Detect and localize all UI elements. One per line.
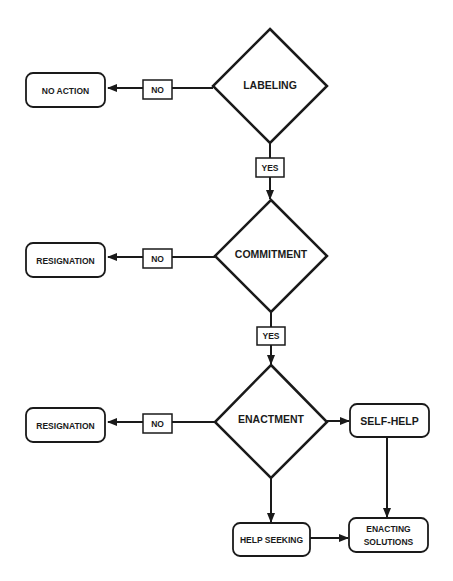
edge-enactment-to-resignation: NO — [108, 414, 215, 433]
outcome-label-line1: ENACTING — [366, 524, 411, 534]
decision-label: ENACTMENT — [238, 413, 304, 425]
edge-labeling-to-no-action: NO — [108, 80, 213, 99]
edge-labeling-to-commitment: YES — [256, 143, 284, 199]
outcome-self-help: SELF-HELP — [350, 404, 429, 437]
outcome-label: NO ACTION — [42, 86, 89, 96]
edge-label-no: NO — [151, 419, 164, 429]
edge-commitment-to-resignation: NO — [108, 249, 215, 268]
edge-label-yes: YES — [261, 163, 278, 173]
decision-labeling: LABELING — [213, 29, 327, 143]
outcome-label: HELP SEEKING — [240, 535, 304, 545]
decision-enactment: ENACTMENT — [215, 365, 327, 478]
flowchart: LABELING NO NO ACTION YES COMMITMENT NO … — [0, 0, 453, 581]
edge-commitment-to-enactment: YES — [257, 312, 285, 364]
edge-label-yes: YES — [262, 331, 279, 341]
outcome-label: RESIGNATION — [36, 421, 94, 431]
outcome-resignation-1: RESIGNATION — [26, 243, 105, 277]
edge-label-no: NO — [151, 254, 164, 264]
outcome-label-line2: SOLUTIONS — [364, 537, 414, 547]
outcome-help-seeking: HELP SEEKING — [233, 523, 310, 556]
outcome-enacting-solutions: ENACTING SOLUTIONS — [349, 518, 428, 552]
decision-label: COMMITMENT — [235, 248, 308, 260]
edge-label-no: NO — [151, 85, 164, 95]
outcome-no-action: NO ACTION — [26, 73, 105, 107]
decision-commitment: COMMITMENT — [215, 200, 327, 312]
outcome-label: SELF-HELP — [360, 415, 418, 427]
outcome-resignation-2: RESIGNATION — [26, 408, 105, 442]
decision-label: LABELING — [243, 79, 297, 91]
outcome-label: RESIGNATION — [36, 256, 94, 266]
